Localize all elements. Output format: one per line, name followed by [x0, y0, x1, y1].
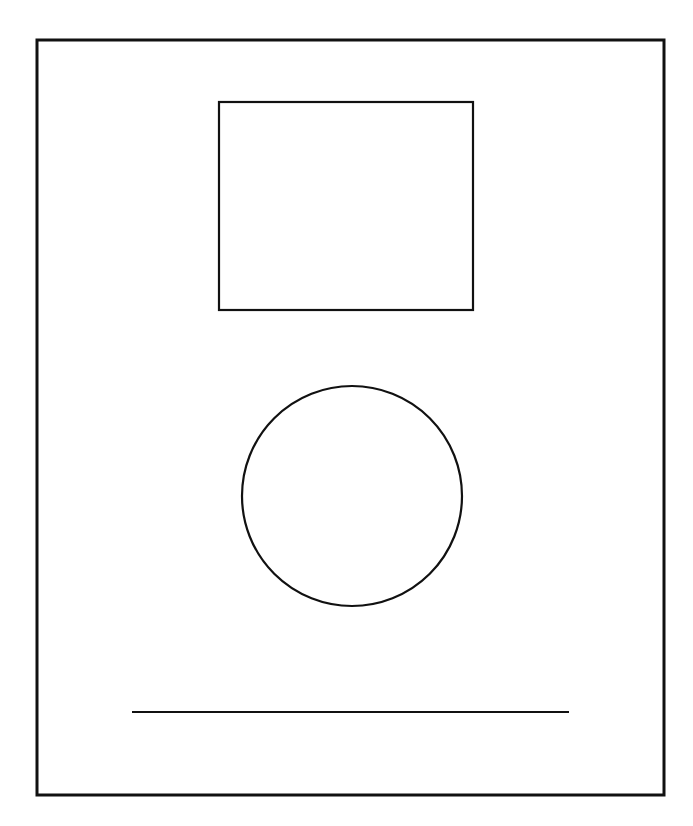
outer-frame [37, 40, 664, 795]
circle-shape [242, 386, 462, 606]
diagram-canvas [0, 0, 693, 826]
rectangle-shape [219, 102, 473, 310]
